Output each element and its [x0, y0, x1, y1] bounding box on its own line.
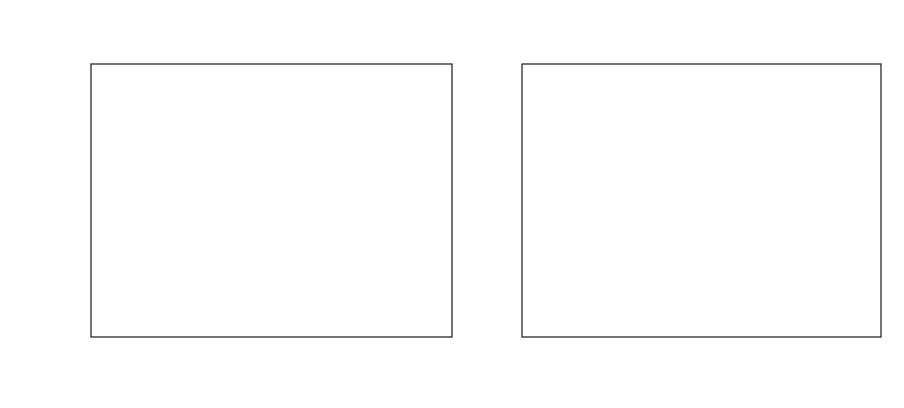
figure: [0, 0, 904, 408]
panel-b: [522, 64, 881, 337]
panel-a: [91, 64, 452, 337]
axes-frame-a: [91, 64, 452, 337]
axes-frame-b: [522, 64, 881, 337]
